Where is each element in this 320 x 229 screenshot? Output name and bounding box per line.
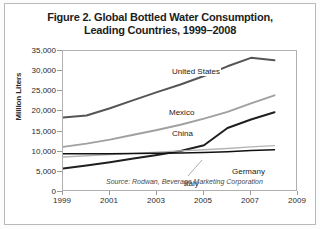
x-tick-mark (297, 191, 298, 195)
y-tick-mark (57, 151, 62, 152)
figure-container: Figure 2. Global Bottled Water Consumpti… (0, 0, 320, 229)
series-label-mexico: Mexico (168, 108, 195, 117)
x-tick-mark (62, 191, 63, 195)
x-tick-label: 2007 (241, 196, 259, 205)
x-axis-tick-labels: 199920012003200520072009 (0, 196, 320, 216)
y-tick-label: 15,000 (32, 126, 56, 135)
plot-area: United StatesMexicoChinaItalyGermany (62, 50, 297, 191)
x-tick-label: 2001 (100, 196, 118, 205)
x-tick-mark (156, 191, 157, 195)
y-tick-label: 0 (52, 187, 56, 196)
figure-title-line1: Figure 2. Global Bottled Water Consumpti… (47, 11, 273, 23)
x-tick-label: 2009 (288, 196, 306, 205)
y-tick-mark (57, 110, 62, 111)
series-label-united-states: United States (171, 67, 221, 76)
figure-title-line2: Leading Countries, 1999–2008 (0, 24, 320, 37)
y-tick-label: 30,000 (32, 66, 56, 75)
series-label-china: China (171, 129, 194, 138)
x-tick-label: 2005 (194, 196, 212, 205)
y-tick-label: 20,000 (32, 106, 56, 115)
series-line-mexico (63, 95, 275, 147)
y-tick-label: 5,000 (36, 166, 56, 175)
figure-title: Figure 2. Global Bottled Water Consumpti… (0, 11, 320, 37)
y-tick-mark (57, 131, 62, 132)
y-tick-label: 35,000 (32, 46, 56, 55)
y-tick-label: 10,000 (32, 146, 56, 155)
source-note: Source: Rodwan, Beverage Marketing Corpo… (106, 178, 263, 185)
y-tick-mark (57, 70, 62, 71)
y-tick-mark (57, 90, 62, 91)
x-tick-mark (203, 191, 204, 195)
x-tick-label: 2003 (147, 196, 165, 205)
x-tick-label: 1999 (53, 196, 71, 205)
y-axis-tick-labels: 05,00010,00015,00020,00025,00030,00035,0… (0, 42, 60, 200)
series-line-china (63, 112, 275, 168)
x-tick-mark (109, 191, 110, 195)
series-label-germany: Germany (231, 167, 266, 176)
y-tick-label: 25,000 (32, 86, 56, 95)
x-tick-mark (250, 191, 251, 195)
y-tick-mark (57, 50, 62, 51)
y-tick-mark (57, 171, 62, 172)
